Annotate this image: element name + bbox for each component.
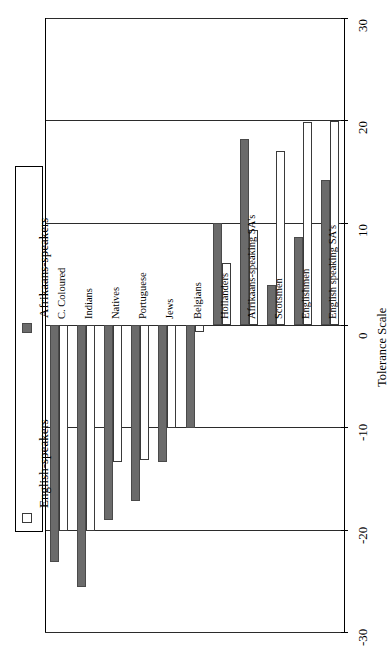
tick-label: 20 [356, 121, 369, 134]
category-label: Jews [165, 299, 176, 319]
bar-afr-1 [77, 325, 86, 587]
category-label: Indians [84, 288, 95, 319]
tick-label: -20 [356, 526, 369, 543]
gridline [45, 18, 344, 19]
tick-label: 10 [356, 224, 369, 237]
tick-label: -30 [356, 629, 369, 646]
category-label: Belgians [193, 282, 204, 319]
legend-label-afrikaans-speakers: Afrikaans-speakers [37, 218, 50, 318]
bar-eng-3 [140, 325, 149, 460]
gridline [45, 632, 344, 633]
bar-eng-1 [86, 325, 95, 531]
bar-afr-4 [158, 325, 167, 462]
bar-eng-0 [59, 325, 68, 531]
value-axis-spine [344, 18, 345, 632]
category-label: Hollanders [220, 273, 231, 319]
chart-canvas: C. ColouredIndiansNativesPortugueseJewsB… [0, 0, 390, 650]
bar-eng-4 [167, 325, 176, 428]
category-axis-spine [45, 18, 46, 632]
gridline [45, 120, 344, 121]
category-label: Natives [111, 287, 122, 319]
legend-label-english-speakers: English-speakers [37, 419, 50, 508]
bar-afr-5 [186, 325, 195, 428]
category-label: Englishmen [301, 269, 312, 319]
category-label: Afrikaans-speaking SA's [247, 215, 258, 319]
category-label: Portuguese [138, 272, 149, 319]
tick-label: 30 [356, 19, 369, 32]
bar-eng-2 [113, 325, 122, 462]
legend-swatch-afrikaans-speakers [22, 323, 32, 333]
axis-tick [341, 632, 348, 633]
chart-legend: English-speakers Afrikaans-speakers [15, 166, 43, 532]
tick-label: 0 [356, 333, 369, 340]
legend-swatch-english-speakers [22, 513, 32, 523]
bar-eng-5 [195, 325, 204, 332]
category-label: Scotsmen [274, 278, 285, 319]
tick-label: -10 [356, 424, 369, 441]
axis-title: Tolerance Scale [376, 308, 389, 387]
bar-afr-2 [104, 325, 113, 520]
category-label: C. Coloured [57, 268, 68, 319]
bar-afr-3 [131, 325, 140, 501]
gridline [45, 223, 344, 224]
category-label: English speaking SA's [328, 225, 339, 319]
